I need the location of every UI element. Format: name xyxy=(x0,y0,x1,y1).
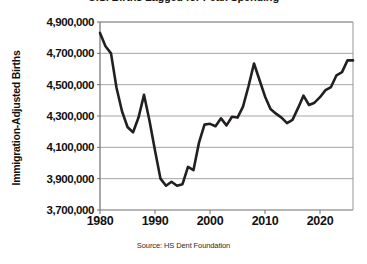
source-note: Source: HS Dent Foundation xyxy=(0,241,367,250)
plot-area xyxy=(0,0,367,264)
chart-figure: U.S. Births Lagged for Peak Spending Imm… xyxy=(0,0,367,264)
data-series-line xyxy=(100,33,353,186)
